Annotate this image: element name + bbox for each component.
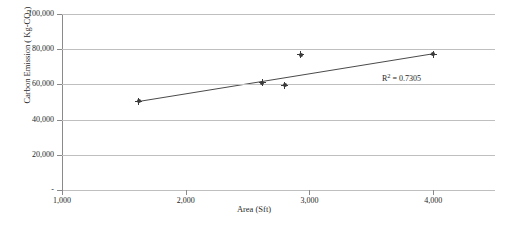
x-tick-label-2000: 2,000 — [161, 197, 211, 205]
y-tick-label-60000: 60,000 — [0, 80, 54, 88]
y-tick-label-40000: 40,000 — [0, 116, 54, 124]
y-axis-title-prefix: Carbon Emission ( Kg-CO — [22, 13, 32, 104]
y-tick-mark-20000 — [57, 155, 62, 156]
gridline-y-100000 — [62, 14, 495, 15]
y-axis-title: Carbon Emission ( Kg-CO2) — [23, 0, 33, 130]
y-tick-mark-80000 — [57, 49, 62, 50]
data-point — [137, 99, 141, 103]
gridline-y-0 — [62, 190, 495, 191]
data-point — [299, 53, 303, 57]
x-tick-label-4000: 4,000 — [408, 197, 458, 205]
x-tick-mark-4000 — [433, 190, 434, 195]
x-tick-mark-3000 — [309, 190, 310, 195]
x-tick-label-1000: 1,000 — [37, 197, 87, 205]
y-tick-mark-100000 — [57, 14, 62, 15]
x-tick-mark-2000 — [186, 190, 187, 195]
gridline-y-60000 — [62, 84, 495, 85]
y-tick-mark-40000 — [57, 120, 62, 121]
y-tick-label-20000: 20,000 — [0, 151, 54, 159]
gridline-y-20000 — [62, 155, 495, 156]
scatter-chart: Carbon Emission ( Kg-CO2) Area (Sft) R2 … — [0, 0, 508, 226]
plot-area — [62, 14, 495, 190]
r-squared-annotation: R2 = 0.7305 — [382, 72, 421, 83]
y-tick-label-100000: 100,000 — [0, 10, 54, 18]
x-tick-label-3000: 3,000 — [284, 197, 334, 205]
trendline-svg — [62, 14, 495, 190]
y-tick-label-80000: 80,000 — [0, 45, 54, 53]
y-tick-label-0: - — [0, 186, 54, 194]
y-tick-mark-60000 — [57, 84, 62, 85]
x-tick-mark-1000 — [62, 190, 63, 195]
gridline-y-80000 — [62, 49, 495, 50]
data-point — [283, 83, 287, 87]
gridline-y-40000 — [62, 120, 495, 121]
r-squared-suffix: = 0.7305 — [391, 74, 422, 83]
x-axis-title: Area (Sft) — [0, 205, 508, 214]
